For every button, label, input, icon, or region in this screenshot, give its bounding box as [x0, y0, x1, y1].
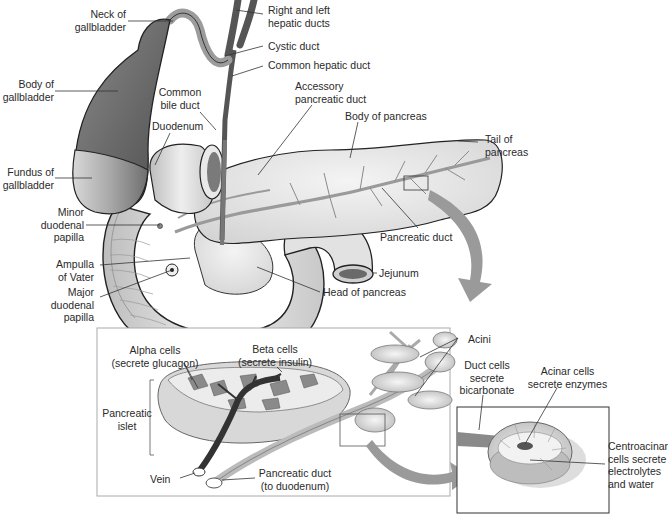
label-cystic-duct: Cystic duct — [268, 40, 319, 53]
label-common-bile-duct: Common bile duct — [150, 86, 210, 111]
label-duodenum: Duodenum — [152, 120, 203, 133]
label-pancreatic-islet: Pancreatic islet — [98, 407, 156, 432]
label-accessory-pancreatic-duct: Accessory pancreatic duct — [295, 80, 366, 105]
label-ampulla-of-vater: Ampulla of Vater — [20, 258, 94, 283]
pancreas-illustration — [0, 0, 668, 521]
label-beta-cells: Beta cells (secrete insulin) — [225, 343, 325, 368]
label-common-hepatic-duct: Common hepatic duct — [268, 59, 370, 72]
label-minor-duodenal-papilla: Minor duodenal papilla — [20, 206, 84, 244]
label-major-duodenal-papilla: Major duodenal papilla — [20, 286, 94, 324]
label-vein: Vein — [150, 473, 170, 486]
label-duct-cells: Duct cells secrete bicarbonate — [452, 359, 522, 397]
label-body-of-gallbladder: Body of gallbladder — [0, 78, 54, 103]
label-body-of-pancreas: Body of pancreas — [345, 110, 427, 123]
label-neck-of-gallbladder: Neck of gallbladder — [46, 8, 126, 33]
label-pancreatic-duct-to-duodenum: Pancreatic duct (to duodenum) — [250, 467, 340, 492]
label-alpha-cells: Alpha cells (secrete glucagon) — [100, 344, 210, 369]
label-pancreatic-duct: Pancreatic duct — [380, 231, 452, 244]
label-jejunum: Jejunum — [379, 267, 419, 280]
label-right-and-left-hepatic-ducts: Right and left hepatic ducts — [268, 4, 330, 29]
label-fundus-of-gallbladder: Fundus of gallbladder — [0, 166, 54, 191]
label-acinar-cells: Acinar cells secrete enzymes — [525, 365, 610, 390]
label-tail-of-pancreas: Tail of pancreas — [485, 133, 528, 158]
label-centroacinar-cells: Centroacinar cells secrete electrolytes … — [608, 440, 668, 490]
label-acini: Acini — [468, 333, 491, 346]
label-head-of-pancreas: Head of pancreas — [323, 286, 406, 299]
